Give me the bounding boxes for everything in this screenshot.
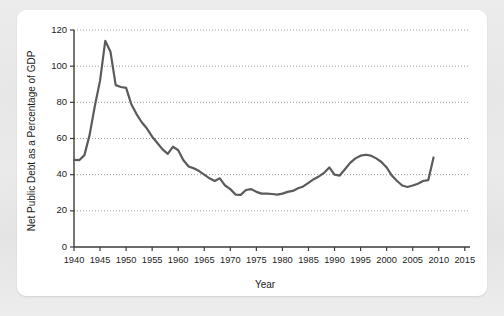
x-tick-label-1945: 1945 [90, 255, 111, 265]
x-tick-label-1980: 1980 [272, 255, 293, 265]
y-tick-label-80: 80 [56, 96, 67, 107]
y-tick-label-120: 120 [51, 24, 67, 35]
y-tick-label-100: 100 [51, 60, 67, 71]
x-tick-label-1985: 1985 [298, 255, 319, 265]
chart-card: 020406080100120 194019451950195519601965… [17, 10, 487, 296]
screenshot-root: 020406080100120 194019451950195519601965… [0, 0, 504, 316]
x-axis-title: Year [255, 279, 276, 290]
y-tick-label-40: 40 [56, 168, 67, 179]
y-tick-label-0: 0 [62, 241, 67, 252]
y-axis-title: Net Public Debt as a Percentage of GDP [26, 50, 37, 231]
x-tick-label-1950: 1950 [116, 255, 137, 265]
chart-figure: 020406080100120 194019451950195519601965… [17, 10, 487, 296]
x-tick-label-1965: 1965 [194, 255, 215, 265]
y-tick-label-60: 60 [56, 132, 67, 143]
x-tick-label-1995: 1995 [350, 255, 371, 265]
y-tick-group: 020406080100120 [51, 24, 74, 252]
x-tick-label-1940: 1940 [64, 255, 85, 265]
x-tick-label-1990: 1990 [324, 255, 345, 265]
x-tick-label-2000: 2000 [376, 255, 397, 265]
x-tick-label-2010: 2010 [428, 255, 449, 265]
x-tick-label-1975: 1975 [246, 255, 267, 265]
x-tick-group: 1940194519501955196019651970197519801985… [64, 247, 475, 265]
x-tick-label-2015: 2015 [454, 255, 475, 265]
y-tick-label-20: 20 [56, 204, 67, 215]
gridlines-group [74, 30, 470, 211]
x-tick-label-1955: 1955 [142, 255, 163, 265]
line-chart: 020406080100120 194019451950195519601965… [17, 10, 487, 296]
x-tick-label-1960: 1960 [168, 255, 189, 265]
x-tick-label-2005: 2005 [402, 255, 423, 265]
x-tick-label-1970: 1970 [220, 255, 241, 265]
data-series-line [74, 41, 434, 195]
